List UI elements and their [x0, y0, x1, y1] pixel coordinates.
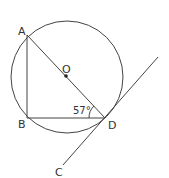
label-d: D: [108, 119, 116, 132]
label-a: A: [18, 25, 26, 38]
label-c: C: [55, 166, 63, 178]
label-o: O: [62, 63, 71, 76]
angle-label: 57°: [73, 105, 91, 116]
label-b: B: [18, 118, 26, 131]
geometry-diagram: A B C D O 57°: [0, 0, 169, 178]
